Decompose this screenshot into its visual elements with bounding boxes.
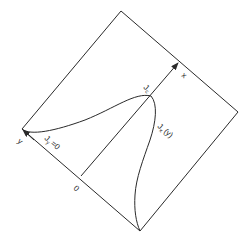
y-axis-label: y	[16, 137, 25, 146]
profile-curve-jx	[135, 96, 156, 231]
x-axis	[81, 63, 178, 176]
profile-label-jxy: J x (y)	[155, 122, 175, 141]
boundary-label-jy0: J y =0	[42, 134, 62, 153]
diagram-svg: x y 0 J c J y =0 J x (y)	[0, 0, 251, 246]
domain-boundary	[22, 11, 238, 231]
x-axis-label: x	[180, 71, 189, 80]
profile-curve-upper	[22, 95, 151, 132]
diagram-canvas: x y 0 J c J y =0 J x (y)	[0, 0, 251, 246]
peak-label-jc: J c	[141, 83, 153, 95]
origin-label: 0	[72, 184, 82, 194]
